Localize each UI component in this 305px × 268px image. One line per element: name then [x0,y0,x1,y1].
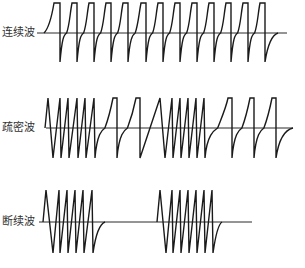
waveform-diagram: 连续波 疏密波 断续波 [0,0,305,268]
waveform-canvas [0,0,305,268]
label-dense-sparse-wave: 疏密波 [2,122,35,134]
label-continuous-wave: 连续波 [2,27,35,39]
label-intermittent-wave: 断续波 [2,216,35,228]
